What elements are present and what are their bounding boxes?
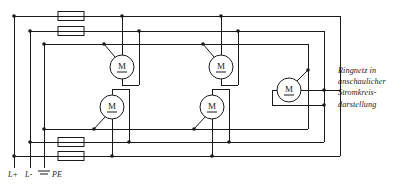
motor-3-switch-lead bbox=[297, 70, 308, 81]
motor-5-switch-node bbox=[192, 127, 196, 131]
motor-1-supply-node bbox=[120, 14, 124, 18]
earth-ground-icon bbox=[38, 171, 50, 174]
motor-1-switch-lead bbox=[104, 44, 115, 57]
motor-5-return-node bbox=[227, 140, 231, 144]
fuse-group bbox=[58, 12, 84, 161]
motor-5-switch-lead bbox=[194, 117, 205, 129]
junction-pe-top bbox=[42, 42, 46, 46]
motor-2-return-node bbox=[236, 29, 240, 33]
rail-label-pe: PE bbox=[51, 170, 62, 179]
motor-branch-5: M bbox=[192, 89, 231, 158]
motor-3-switch-node bbox=[306, 68, 310, 72]
motor-2-switch-node bbox=[201, 42, 205, 46]
rail-label-group: L+ L- PE bbox=[7, 170, 62, 179]
motor-branch-1: M bbox=[102, 14, 141, 85]
motor-3-label: M bbox=[285, 84, 293, 94]
motor-1-switch-node bbox=[102, 42, 106, 46]
motor-4-switch-node bbox=[92, 127, 96, 131]
motor-4-return-node bbox=[127, 140, 131, 144]
rail-label-l-minus: L- bbox=[24, 170, 32, 179]
junction-l-plus-bottom bbox=[12, 154, 16, 158]
motor-1-label: M bbox=[118, 61, 126, 71]
junction-l-minus-bottom bbox=[28, 140, 32, 144]
motor-3-supply-node bbox=[322, 88, 326, 92]
junction-l-minus-top bbox=[28, 29, 32, 33]
motor-2-label: M bbox=[217, 61, 225, 71]
motor-2-switch-lead bbox=[203, 44, 214, 57]
caption-line-2: anschaulicher bbox=[338, 76, 386, 87]
caption-line-4: darstellung bbox=[338, 99, 386, 110]
motor-branch-4: M bbox=[92, 89, 131, 158]
motor-4-label: M bbox=[108, 101, 116, 111]
junction-l-plus-top bbox=[12, 14, 16, 18]
rail-label-l-plus: L+ bbox=[7, 170, 18, 179]
motor-branch-2: M bbox=[201, 14, 240, 85]
motor-2-supply-node bbox=[219, 14, 223, 18]
junction-dot-group bbox=[12, 14, 46, 158]
motor-1-return-node bbox=[137, 29, 141, 33]
motor-5-supply-node bbox=[210, 154, 214, 158]
caption-line-1: Ringnetz in bbox=[338, 65, 386, 76]
motor-5-label: M bbox=[208, 101, 216, 111]
motor-branch-3: M bbox=[272, 68, 340, 107]
motor-4-supply-node bbox=[110, 154, 114, 158]
motor-3-return-node bbox=[322, 103, 326, 107]
caption-block: Ringnetz in anschaulicher Stromkreis- da… bbox=[338, 65, 386, 110]
ring-return-group bbox=[308, 16, 340, 156]
supply-rails-group bbox=[14, 16, 44, 168]
caption-line-3: Stromkreis- bbox=[338, 87, 386, 98]
junction-pe-bottom bbox=[42, 127, 46, 131]
motor-4-switch-lead bbox=[94, 117, 105, 129]
ringnetz-diagram: M M bbox=[0, 0, 405, 186]
